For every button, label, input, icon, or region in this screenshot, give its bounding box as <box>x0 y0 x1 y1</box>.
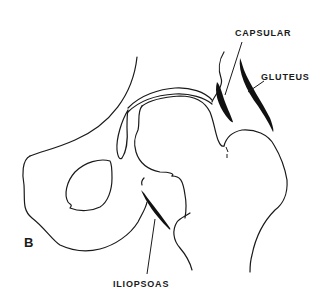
femoral-neck-lower <box>172 176 186 218</box>
ilium-crest-outline <box>30 57 137 156</box>
capsular-leader-line <box>225 42 242 95</box>
panel-label: B <box>24 235 33 250</box>
capsule-tick <box>226 147 228 158</box>
lesser-trochanter-outline <box>174 213 192 270</box>
acetabulum-rim-outer <box>128 88 212 108</box>
capsular-band <box>216 82 233 122</box>
iliac-spine-outline <box>117 110 128 159</box>
femoral-head-outline <box>135 106 173 176</box>
obturator-foramen-outline <box>66 160 112 211</box>
gluteus-label: GLUTEUS <box>261 72 310 82</box>
greater-trochanter-outline <box>224 130 287 272</box>
iliopsoas-band <box>141 190 170 230</box>
gluteus-band <box>240 58 274 132</box>
iliopsoas-leader-line <box>147 219 155 274</box>
hip-anatomy-diagram: CAPSULAR GLUTEUS ILIOPSOAS B <box>0 0 327 305</box>
pelvis-outline <box>23 156 147 251</box>
capsular-label: CAPSULAR <box>235 28 291 38</box>
iliopsoas-tick <box>142 178 144 185</box>
iliopsoas-label: ILIOPSOAS <box>113 279 169 289</box>
